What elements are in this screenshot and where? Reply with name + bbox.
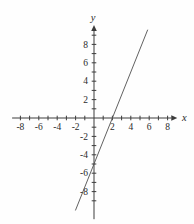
- x-tick-label: -8: [16, 122, 24, 132]
- y-tick-label: 2: [83, 95, 88, 105]
- coordinate-plane-figure: -8-6-4-224688642-2-4-6-8 x y: [0, 0, 194, 224]
- x-tick-label: -4: [53, 122, 61, 132]
- x-axis-label: x: [181, 112, 187, 123]
- x-tick-label: 8: [165, 122, 170, 132]
- y-tick-label: -2: [80, 132, 88, 142]
- y-tick-label: 6: [83, 58, 88, 68]
- x-tick-label: -2: [72, 122, 80, 132]
- x-axis-arrowhead: [171, 115, 177, 121]
- plotted-lines: [75, 30, 147, 211]
- y-tick-label: -6: [80, 168, 88, 178]
- y-tick-label: 4: [83, 76, 88, 86]
- x-tick-label: -6: [35, 122, 43, 132]
- y-tick-label: 8: [83, 40, 88, 50]
- y-axis-label: y: [90, 12, 96, 23]
- plot-svg: -8-6-4-224688642-2-4-6-8 x y: [0, 0, 194, 224]
- graph-line: [75, 30, 147, 211]
- y-tick-label: -4: [80, 150, 88, 160]
- y-axis-arrowhead: [91, 25, 97, 31]
- x-tick-label: 4: [128, 122, 133, 132]
- x-tick-label: 6: [147, 122, 152, 132]
